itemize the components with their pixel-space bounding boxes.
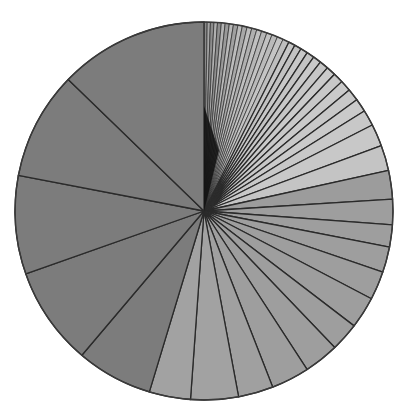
- pie-slices: [15, 22, 393, 400]
- pie-chart: [0, 0, 406, 417]
